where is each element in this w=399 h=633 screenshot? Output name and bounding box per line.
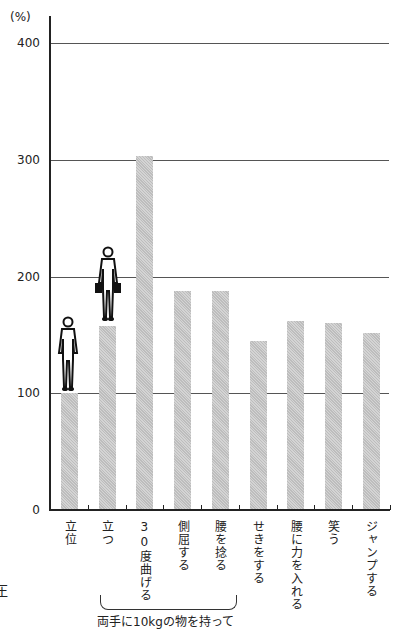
x-tick-label: 30度曲げる [137, 520, 151, 602]
x-tick-label: 立つ [100, 520, 114, 546]
person-holding-weights-icon [93, 246, 123, 322]
x-axis [49, 509, 390, 511]
y-axis [49, 16, 51, 511]
bar [325, 323, 342, 510]
x-tick-label: 笑う [326, 520, 340, 546]
bar [174, 291, 191, 510]
bar [287, 321, 304, 510]
bar [250, 341, 267, 510]
x-tick-label: 腰に力を入れる [288, 520, 302, 611]
y-tick-200: 200 [0, 270, 40, 284]
cropped-edge-text: 圧 [0, 580, 8, 600]
y-axis-unit: (%) [10, 10, 31, 24]
x-tick-label: 立位 [62, 520, 76, 546]
bar [212, 291, 229, 510]
y-tick-0: 0 [0, 503, 40, 517]
group-brace [100, 595, 237, 610]
y-tick-400: 400 [0, 36, 40, 50]
bar [136, 156, 153, 510]
x-tick-label: ジャンプする [364, 520, 378, 598]
x-tick-label: 側屈する [175, 520, 189, 572]
gridline-400 [50, 43, 389, 44]
x-tick-label: せきをする [251, 520, 265, 585]
y-tick-300: 300 [0, 153, 40, 167]
standing-person-icon [55, 316, 81, 392]
bar [61, 393, 78, 510]
bar [99, 326, 116, 510]
y-tick-100: 100 [0, 386, 40, 400]
bar [363, 333, 380, 510]
group-label: 両手に10kgの物を持って [97, 612, 234, 629]
gridline-300 [50, 160, 389, 161]
x-tick-label: 腰を捻る [213, 520, 227, 572]
